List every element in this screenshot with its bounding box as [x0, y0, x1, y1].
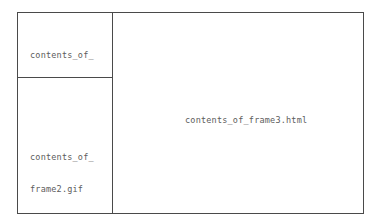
frame-1[interactable]: contents_of_ frame1.html: [18, 13, 112, 78]
frame-3-label: contents_of_frame3.html: [185, 94, 307, 147]
frame-2-label: contents_of_ frame2.gif: [30, 131, 94, 213]
frameset-container: contents_of_ frame1.html contents_of_ fr…: [17, 12, 364, 214]
frame-1-label: contents_of_ frame1.html: [30, 29, 94, 78]
frame-2[interactable]: contents_of_ frame2.gif: [18, 78, 112, 213]
frame-1-label-line-1: contents_of_: [30, 50, 94, 61]
frameset-left-column: contents_of_ frame1.html contents_of_ fr…: [18, 13, 113, 213]
frame-2-label-line-1: contents_of_: [30, 152, 94, 163]
frame-3[interactable]: contents_of_frame3.html: [113, 13, 363, 213]
frameset-right-column: contents_of_frame3.html: [113, 13, 363, 213]
frame-2-label-line-2: frame2.gif: [30, 184, 94, 195]
frame-3-label-line-1: contents_of_frame3.html: [185, 115, 307, 126]
